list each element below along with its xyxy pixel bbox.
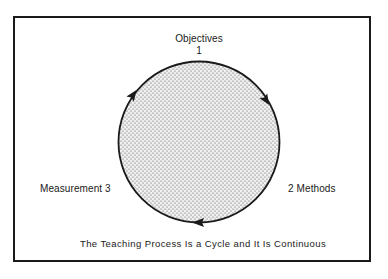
objectives-label: Objectives <box>0 33 388 44</box>
cycle-circle <box>119 62 280 223</box>
objectives-number: 1 <box>0 45 388 56</box>
diagram-caption: The Teaching Process Is a Cycle and It I… <box>0 238 388 249</box>
methods-label: 2 Methods <box>288 183 336 194</box>
measurement-label: Measurement 3 <box>40 183 111 194</box>
